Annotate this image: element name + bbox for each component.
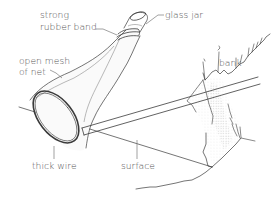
label-rubber-band-line1: strong bbox=[40, 9, 69, 20]
label-open-mesh-line1: open mesh bbox=[19, 55, 70, 66]
label-bank: bank bbox=[219, 57, 242, 68]
label-surface: surface bbox=[121, 160, 155, 171]
label-open-mesh-line2: of net bbox=[19, 66, 46, 77]
label-glass-jar: glass jar bbox=[165, 9, 203, 20]
label-thick-wire: thick wire bbox=[32, 160, 77, 171]
pond-net-diagram: strong rubber band glass jar open mesh o… bbox=[0, 0, 276, 197]
bank-illustration bbox=[136, 34, 270, 189]
label-rubber-band-line2: rubber band bbox=[40, 21, 97, 32]
